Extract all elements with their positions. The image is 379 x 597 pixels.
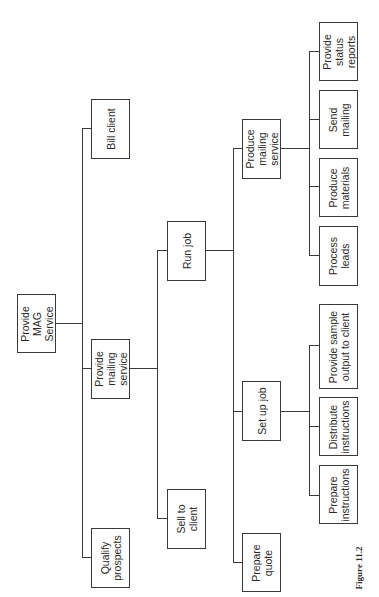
node-prepare-quote: Prepare quote [242,533,281,592]
node-label: Provide status reports [321,34,357,70]
node-label: Provide MAG Service [19,306,55,342]
node-label: Send mailing [327,103,351,136]
node-label: Distribute instructions [327,400,351,453]
connector [233,148,234,563]
node-produce-mailing-service: Produce mailing service [242,119,281,179]
connector [55,323,83,324]
node-label: Prepare instructions [327,468,351,521]
node-label: Produce materials [327,166,351,209]
node-provide-mag-service: Provide MAG Service [17,294,56,353]
node-provide-sample-output: Provide sample output to client [319,304,358,389]
node-produce-materials: Produce materials [319,158,358,217]
figure-caption: Figure 11.2 [354,547,364,590]
connector [309,345,310,496]
connector [280,148,310,149]
node-prepare-instructions: Prepare instructions [319,465,358,524]
node-label: Process leads [327,237,351,275]
connector [309,51,310,256]
hierarchy-diagram: Provide MAG Service Bill client Provide … [0,0,379,597]
node-set-up-job: Set up job [242,381,281,441]
node-label: Provide mailing service [93,351,129,387]
node-distribute-instructions: Distribute instructions [319,397,358,456]
node-label: Sell to client [175,504,199,533]
node-label: Qualify prospects [99,535,123,581]
connector [82,128,83,558]
node-label: Provide sample output to client [327,310,351,382]
node-label: Run job [181,233,193,269]
node-label: Set up job [256,387,268,434]
node-run-job: Run job [167,221,206,281]
node-bill-client: Bill client [91,99,130,159]
node-provide-status-reports: Provide status reports [319,22,358,81]
connector [280,411,310,412]
connector [204,250,234,251]
node-qualify-prospects: Qualify prospects [91,528,130,588]
node-sell-to-client: Sell to client [167,489,206,549]
node-provide-mailing-service: Provide mailing service [91,339,130,399]
node-process-leads: Process leads [319,226,358,286]
connector [157,250,158,519]
node-send-mailing: Send mailing [319,90,358,149]
node-label: Produce mailing service [244,129,280,168]
node-label: Bill client [105,108,117,149]
connector [129,368,158,369]
node-label: Prepare quote [250,544,274,581]
